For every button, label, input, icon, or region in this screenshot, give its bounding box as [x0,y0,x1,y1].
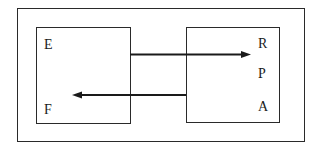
right-label-a: A [258,100,268,114]
left-label-e: E [44,38,53,52]
right-label-r: R [258,37,267,51]
right-label-p: P [258,67,266,81]
left-label-f: F [44,103,52,117]
